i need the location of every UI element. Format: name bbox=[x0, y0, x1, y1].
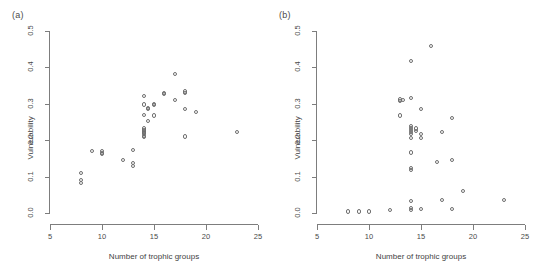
data-point bbox=[409, 168, 413, 172]
y-tick-label: 0.3 bbox=[293, 91, 302, 115]
x-tick-label: 20 bbox=[194, 232, 218, 241]
data-point bbox=[183, 91, 187, 95]
data-point bbox=[357, 209, 361, 213]
data-point bbox=[152, 113, 156, 117]
data-point bbox=[131, 164, 135, 168]
x-tick-label: 5 bbox=[305, 232, 329, 241]
data-point bbox=[79, 181, 83, 185]
data-point bbox=[162, 92, 166, 96]
y-tick-label: 0.4 bbox=[293, 55, 302, 79]
panel-b-x-axis-title: Number of trophic groups bbox=[317, 252, 525, 261]
figure-root: (a) Vulnerability Number of trophic grou… bbox=[0, 0, 534, 270]
data-point bbox=[409, 136, 413, 140]
y-tick-label: 0.0 bbox=[26, 201, 35, 225]
y-tick-label: 0.0 bbox=[293, 201, 302, 225]
x-tick bbox=[102, 225, 103, 230]
data-point bbox=[419, 207, 423, 211]
y-tick-label: 0.5 bbox=[26, 19, 35, 43]
x-tick bbox=[317, 225, 318, 230]
data-point bbox=[131, 148, 135, 152]
y-tick bbox=[45, 67, 50, 68]
data-point bbox=[409, 59, 413, 63]
x-tick bbox=[258, 225, 259, 230]
data-point bbox=[152, 103, 156, 107]
data-point bbox=[409, 150, 413, 154]
y-tick-label: 0.4 bbox=[26, 55, 35, 79]
y-tick-label: 0.1 bbox=[293, 164, 302, 188]
data-point bbox=[173, 98, 177, 102]
panel-b-plot-area bbox=[317, 31, 525, 213]
panel-a-y-axis bbox=[49, 31, 50, 213]
x-tick-label: 10 bbox=[90, 232, 114, 241]
data-point bbox=[142, 113, 146, 117]
y-tick bbox=[45, 213, 50, 214]
data-point bbox=[419, 136, 423, 140]
data-point bbox=[100, 152, 104, 156]
y-tick bbox=[45, 31, 50, 32]
panel-a-x-axis-title: Number of trophic groups bbox=[50, 252, 258, 261]
data-point bbox=[183, 134, 187, 138]
data-point bbox=[146, 107, 150, 111]
x-tick bbox=[473, 225, 474, 230]
y-tick bbox=[312, 140, 317, 141]
panel-a-label: (a) bbox=[12, 10, 24, 20]
y-tick bbox=[312, 31, 317, 32]
data-point bbox=[502, 198, 506, 202]
data-point bbox=[440, 130, 444, 134]
x-tick bbox=[154, 225, 155, 230]
y-tick bbox=[312, 104, 317, 105]
panel-b: (b) Vulnerability Number of trophic grou… bbox=[267, 0, 534, 270]
y-tick-label: 0.5 bbox=[293, 19, 302, 43]
data-point bbox=[142, 94, 146, 98]
y-tick-label: 0.2 bbox=[293, 128, 302, 152]
x-tick bbox=[525, 225, 526, 230]
y-tick-label: 0.3 bbox=[26, 91, 35, 115]
panel-b-y-axis bbox=[316, 31, 317, 213]
x-tick bbox=[421, 225, 422, 230]
data-point bbox=[414, 129, 418, 133]
data-point bbox=[142, 102, 146, 106]
x-tick-label: 20 bbox=[461, 232, 485, 241]
x-tick-label: 10 bbox=[357, 232, 381, 241]
y-tick-label: 0.1 bbox=[26, 164, 35, 188]
y-tick bbox=[312, 177, 317, 178]
x-tick-label: 25 bbox=[513, 232, 534, 241]
data-point bbox=[409, 208, 413, 212]
data-point bbox=[367, 209, 371, 213]
data-point bbox=[450, 207, 454, 211]
data-point bbox=[440, 198, 444, 202]
data-point bbox=[419, 107, 423, 111]
y-tick bbox=[312, 67, 317, 68]
data-point bbox=[146, 119, 150, 123]
data-point bbox=[435, 160, 439, 164]
x-tick-label: 15 bbox=[409, 232, 433, 241]
data-point bbox=[409, 199, 413, 203]
x-tick bbox=[369, 225, 370, 230]
data-point bbox=[450, 158, 454, 162]
data-point bbox=[173, 72, 177, 76]
data-point bbox=[90, 149, 94, 153]
data-point bbox=[398, 113, 402, 117]
data-point bbox=[461, 189, 465, 193]
data-point bbox=[183, 107, 187, 111]
data-point bbox=[121, 158, 125, 162]
data-point bbox=[79, 171, 83, 175]
panel-b-label: (b) bbox=[279, 10, 291, 20]
data-point bbox=[142, 135, 146, 139]
data-point bbox=[235, 130, 239, 134]
y-tick bbox=[45, 177, 50, 178]
x-tick bbox=[206, 225, 207, 230]
data-point bbox=[194, 110, 198, 114]
data-point bbox=[388, 208, 392, 212]
x-tick bbox=[50, 225, 51, 230]
y-tick-label: 0.2 bbox=[26, 128, 35, 152]
x-tick-label: 5 bbox=[38, 232, 62, 241]
data-point bbox=[401, 98, 405, 102]
panel-a: (a) Vulnerability Number of trophic grou… bbox=[0, 0, 267, 270]
y-tick bbox=[45, 140, 50, 141]
data-point bbox=[346, 209, 350, 213]
data-point bbox=[450, 116, 454, 120]
data-point bbox=[429, 44, 433, 48]
data-point bbox=[409, 96, 413, 100]
x-tick-label: 15 bbox=[142, 232, 166, 241]
